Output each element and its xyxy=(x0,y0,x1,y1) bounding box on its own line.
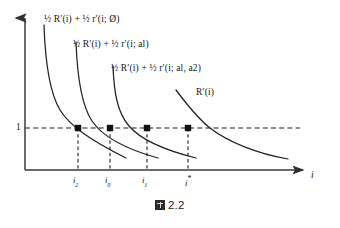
y-axis-level-label: 1 xyxy=(16,123,21,133)
intersection-marker-i0 xyxy=(107,125,113,131)
x-axis-label: i xyxy=(311,171,314,181)
curve-a1-a2 xyxy=(113,66,196,158)
intersection-marker-i2 xyxy=(75,125,81,131)
tick-label-i-star: i* xyxy=(185,176,192,188)
intersection-marker-istar xyxy=(185,125,191,131)
tick-label-i1-sub: 1 xyxy=(144,181,147,188)
intersection-marker-i1 xyxy=(144,125,150,131)
plot-canvas xyxy=(0,0,340,228)
tick-label-i0: i0 xyxy=(105,176,111,187)
tick-label-i0-sub: 0 xyxy=(107,181,110,188)
tick-label-i-star-superscript: * xyxy=(188,174,192,183)
tick-label-i1: i1 xyxy=(142,176,148,187)
figure-caption-number: 2.2 xyxy=(168,199,185,211)
curve-label-a1: ½ R′(i) + ½ r′(i; al) xyxy=(73,40,149,50)
curve-label-R-prime: R′(i) xyxy=(196,88,214,98)
curve-label-empty-set: ½ R′(i) + ½ r′(i; Ø) xyxy=(44,15,120,25)
curve-label-a1-a2: ½ R′(i) + ½ r′(i; al, a2) xyxy=(111,64,201,74)
figure-container: 1 i ½ R′(i) + ½ r′(i; Ø) ½ R′(i) + ½ r′(… xyxy=(0,0,340,228)
tick-label-i2-sub: 2 xyxy=(75,181,78,188)
figure-cjk-glyph-icon xyxy=(155,200,165,210)
figure-caption: 2.2 xyxy=(0,200,340,212)
tick-label-i2: i2 xyxy=(73,176,79,187)
curve-R-prime xyxy=(176,90,288,159)
